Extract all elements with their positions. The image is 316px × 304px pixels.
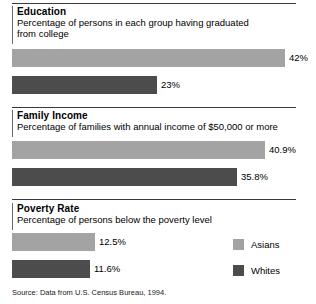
bar-row-poverty-rate-whites: 11.6% (12, 260, 232, 278)
bar-value-family-income-whites: 35.8% (237, 172, 268, 182)
panel-family-income: Family Income Percentage of families wit… (0, 107, 316, 199)
bar-family-income-asians (12, 141, 265, 159)
panel-family-income-top-rule (12, 107, 296, 108)
bar-row-education-whites: 23% (12, 76, 312, 94)
panel-education: Education Percentage of persons in each … (0, 0, 316, 107)
bar-education-whites (12, 76, 157, 94)
panel-family-income-heading: Family Income Percentage of families wit… (12, 110, 302, 137)
legend-item-whites: Whites (233, 264, 313, 276)
bar-value-family-income-asians: 40.9% (265, 145, 296, 155)
panel-education-heading: Education Percentage of persons in each … (12, 6, 302, 44)
panel-education-description-line1: Percentage of persons in each group havi… (17, 17, 302, 28)
bar-row-poverty-rate-asians: 12.5% (12, 233, 232, 251)
legend-label-whites: Whites (251, 265, 280, 276)
panel-poverty-rate-title: Poverty Rate (17, 203, 302, 214)
panel-education-description-line2: from college (17, 28, 302, 39)
legend-swatch-asians-icon (233, 239, 244, 250)
panel-education-title: Education (17, 6, 302, 17)
legend-label-asians: Asians (251, 239, 280, 250)
panel-poverty-rate-top-rule (12, 199, 296, 200)
panel-education-top-rule (12, 3, 296, 4)
bar-poverty-rate-asians (12, 233, 95, 251)
bar-family-income-whites (12, 168, 237, 186)
bar-value-education-whites: 23% (157, 80, 180, 90)
legend-swatch-whites-icon (233, 265, 244, 276)
panel-poverty-rate-description: Percentage of persons below the poverty … (17, 214, 302, 225)
source-note: Source: Data from U.S. Census Bureau, 19… (12, 288, 166, 297)
panel-family-income-title: Family Income (17, 110, 302, 121)
bar-education-asians (12, 49, 285, 67)
bar-row-family-income-whites: 35.8% (12, 168, 312, 186)
bar-row-family-income-asians: 40.9% (12, 141, 312, 159)
legend-item-asians: Asians (233, 238, 313, 250)
panel-poverty-rate-heading: Poverty Rate Percentage of persons below… (12, 203, 302, 230)
bar-row-education-asians: 42% (12, 49, 312, 67)
chart-legend: Asians Whites (233, 238, 313, 290)
bar-value-poverty-rate-whites: 11.6% (90, 264, 120, 274)
bar-poverty-rate-whites (12, 260, 90, 278)
bar-value-education-asians: 42% (285, 53, 308, 63)
comparison-bar-chart: Education Percentage of persons in each … (0, 0, 316, 304)
panel-family-income-description: Percentage of families with annual incom… (17, 121, 302, 132)
bar-value-poverty-rate-asians: 12.5% (95, 237, 126, 247)
